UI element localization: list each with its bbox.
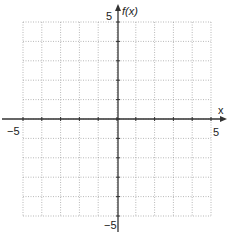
x-min-label: −5 [7, 125, 20, 137]
y-min-label: −5 [104, 219, 117, 231]
coordinate-plane: f(x) 5 x −5 5 −5 [0, 0, 229, 236]
x-axis-label: x [218, 104, 224, 116]
x-axis-arrow-icon [220, 116, 227, 122]
x-max-label: 5 [213, 126, 219, 138]
y-axis-label: f(x) [122, 5, 138, 17]
y-max-label: 5 [106, 10, 112, 22]
y-axis-arrow-icon [115, 4, 121, 11]
